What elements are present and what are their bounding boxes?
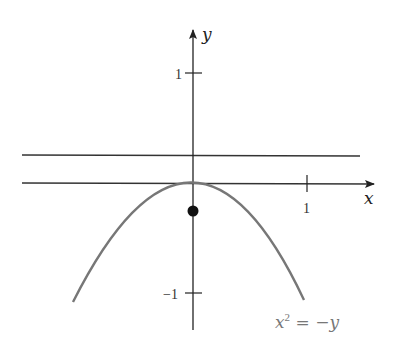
y-tick-label-neg1: −1 [163,287,178,302]
y-tick-label-1: 1 [175,67,182,82]
equation-base: x [275,312,285,332]
y-axis-label: y [201,24,212,44]
curve-equation-label: x2 = −y [275,311,339,332]
parabola-curve [73,182,304,302]
upper-horizontal-line [22,155,360,156]
diagram-canvas: y x 1 −1 1 x2 = −y [0,0,402,349]
focus-point [188,206,199,217]
x-axis-label: x [364,188,374,208]
x-tick-label-1: 1 [303,201,310,216]
equation-rest: = −y [290,312,339,332]
